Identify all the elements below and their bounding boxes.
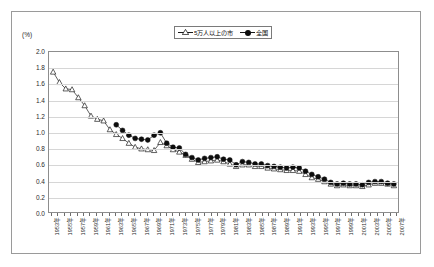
chart-figure: (%) 5万人以上の市 全国 2.01.81.61.41.21.00.80.60… [0, 0, 434, 267]
data-point-filled-circle [240, 159, 245, 164]
data-point-open-triangle [158, 140, 163, 145]
x-tick [243, 213, 244, 216]
y-tick-label: 1.4 [36, 96, 45, 103]
x-tick [339, 213, 340, 216]
x-tick [153, 213, 154, 216]
x-tick [268, 213, 269, 216]
x-tick-label: 1967年 [143, 217, 151, 235]
x-tick [166, 213, 167, 216]
data-point-open-triangle [120, 136, 125, 141]
data-point-filled-circle [202, 156, 207, 161]
y-axis-tick-labels: 2.01.81.61.41.21.00.80.60.40.20.0 [20, 51, 45, 213]
y-tick-label: 1.6 [36, 80, 45, 87]
data-point-filled-circle [145, 138, 150, 143]
x-tick [115, 213, 116, 216]
data-point-filled-circle [215, 154, 220, 159]
series-layer [49, 52, 398, 212]
x-tick [358, 213, 359, 216]
x-tick [294, 213, 295, 216]
x-tick [313, 213, 314, 216]
gridline [49, 133, 398, 134]
x-tick [70, 213, 71, 216]
x-tick [121, 213, 122, 216]
data-point-filled-circle [227, 158, 232, 163]
x-tick-label: 2001年 [360, 217, 368, 235]
x-tick [134, 213, 135, 216]
x-tick [96, 213, 97, 216]
chart-legend: 5万人以上の市 全国 [174, 26, 272, 39]
x-tick [217, 213, 218, 216]
gridline [49, 68, 398, 69]
x-tick-label: 1997年 [334, 217, 342, 235]
x-tick [390, 213, 391, 216]
open-triangle-marker-icon [178, 28, 193, 37]
x-tick [160, 213, 161, 216]
x-tick [77, 213, 78, 216]
x-tick [262, 213, 263, 216]
gridline [49, 149, 398, 150]
x-tick-label: 1961年 [104, 217, 112, 235]
data-point-open-triangle [126, 140, 131, 145]
x-tick [204, 213, 205, 216]
x-tick [332, 213, 333, 216]
data-point-filled-circle [164, 141, 169, 146]
x-tick [179, 213, 180, 216]
data-point-filled-circle [114, 122, 119, 127]
x-tick-label: 2007年 [398, 217, 406, 235]
data-point-filled-circle [303, 169, 308, 174]
x-tick [64, 213, 65, 216]
x-tick [128, 213, 129, 216]
x-tick-label: 1985年 [258, 217, 266, 235]
x-tick-label: 1979年 [219, 217, 227, 235]
data-point-filled-circle [133, 136, 138, 141]
data-point-filled-circle [309, 172, 314, 177]
x-tick [396, 213, 397, 216]
data-point-filled-circle [208, 155, 213, 160]
plot-area [48, 51, 399, 213]
x-tick-label: 1975年 [194, 217, 202, 235]
x-tick-label: 1971年 [168, 217, 176, 235]
x-tick [224, 213, 225, 216]
x-tick [326, 213, 327, 216]
x-tick [147, 213, 148, 216]
x-tick-label: 1999年 [347, 217, 355, 235]
x-tick-label: 2003年 [373, 217, 381, 235]
x-tick [198, 213, 199, 216]
x-tick-label: 1977年 [207, 217, 215, 235]
data-point-filled-circle [360, 182, 365, 187]
data-point-filled-circle [139, 137, 144, 142]
gridline [49, 84, 398, 85]
y-tick-label: 1.0 [36, 129, 45, 136]
x-tick-label: 1955年 [66, 217, 74, 235]
y-tick-label: 0.4 [36, 177, 45, 184]
series-line [53, 72, 394, 186]
y-tick-label: 1.8 [36, 64, 45, 71]
x-tick [172, 213, 173, 216]
x-tick [364, 213, 365, 216]
legend-item-0: 5万人以上の市 [178, 28, 233, 37]
x-tick [185, 213, 186, 216]
x-tick [83, 213, 84, 216]
x-tick-label: 2005年 [385, 217, 393, 235]
x-tick-label: 1991年 [296, 217, 304, 235]
gridline [49, 101, 398, 102]
x-tick [140, 213, 141, 216]
x-tick [351, 213, 352, 216]
y-tick-label: 2.0 [36, 48, 45, 55]
data-point-filled-circle [183, 152, 188, 157]
x-tick [211, 213, 212, 216]
x-tick [370, 213, 371, 216]
x-tick [275, 213, 276, 216]
gridline [49, 198, 398, 199]
x-tick [377, 213, 378, 216]
gridline [49, 182, 398, 183]
x-tick-label: 1989年 [283, 217, 291, 235]
y-tick-label: 0.8 [36, 145, 45, 152]
legend-label-0: 5万人以上の市 [194, 28, 233, 37]
x-tick-label: 1953年 [53, 217, 61, 235]
x-tick-label: 1969年 [155, 217, 163, 235]
x-tick-label: 1987年 [270, 217, 278, 235]
x-tick [307, 213, 308, 216]
gridline [49, 165, 398, 166]
x-tick [255, 213, 256, 216]
